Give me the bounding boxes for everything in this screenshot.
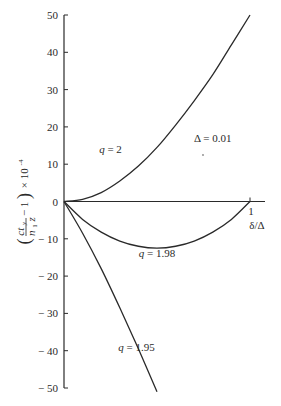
y-tick-label: 10 [47,158,59,170]
y-tick-label: − 50 [38,382,58,394]
ylabel-close: ) [14,193,35,199]
ylabel-den-sub: 1 [31,224,39,228]
annotations: Δ = 0.01q = 2q = 1.98q = 1.95 [99,132,231,353]
y-tick-label: 30 [47,84,59,96]
y-tick-label: − 40 [38,345,58,357]
chart: 50403020100− 10− 20− 30− 40− 50 1δ/Δ Δ =… [0,0,281,406]
x-axis: 1δ/Δ [64,198,265,231]
curve-q1-95 [64,202,157,392]
y-tick-label: 0 [53,196,59,208]
ylabel-mult: × 10 [18,168,30,188]
curve-q1-98 [64,202,250,249]
y-tick-label: 50 [47,9,59,21]
annotation: q = 2 [99,143,122,155]
y-axis: 50403020100− 10− 20− 30− 40− 50 [38,9,68,394]
y-tick-label: 20 [47,121,59,133]
ylabel-exp: -4 [17,159,25,165]
annotation: Δ = 0.01 [194,132,231,144]
x-axis-label: δ/Δ [249,219,264,231]
y-tick-label: − 20 [38,270,58,282]
ylabel-den: n [25,230,37,236]
svg-text:n 1 z: n 1 z [25,217,39,237]
ylabel-den-tail: z [25,217,37,223]
x-tick-label: 1 [248,205,254,217]
curve-q2 [64,15,250,202]
stray-dot [202,154,204,156]
annotation: q = 1.95 [118,341,155,353]
ylabel-open: ( [14,238,35,244]
curves [64,15,250,392]
y-tick-label: − 10 [38,233,58,245]
y-axis-label: ( ct y − 1 ) × 10 -4 n 1 z [14,159,39,244]
annotation: q = 1.98 [139,247,176,259]
y-tick-label: − 30 [38,307,58,319]
y-tick-label: 40 [47,46,59,58]
ylabel-minus: − 1 [18,202,30,216]
